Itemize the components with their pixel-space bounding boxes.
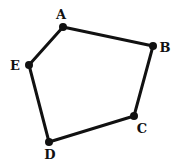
vertex-dot-b xyxy=(149,42,157,50)
pentagon-diagram: A B C D E xyxy=(0,0,177,166)
vertex-label-d: D xyxy=(44,147,55,162)
vertex-label-b: B xyxy=(160,40,171,55)
vertex-label-c: C xyxy=(137,121,147,136)
vertex-label-e: E xyxy=(10,58,20,73)
vertex-dot-a xyxy=(59,23,67,31)
vertex-dot-d xyxy=(45,138,53,146)
vertex-dot-c xyxy=(130,112,138,120)
vertex-label-a: A xyxy=(55,7,67,22)
pentagon-outline xyxy=(29,27,153,142)
vertex-dot-e xyxy=(25,61,33,69)
